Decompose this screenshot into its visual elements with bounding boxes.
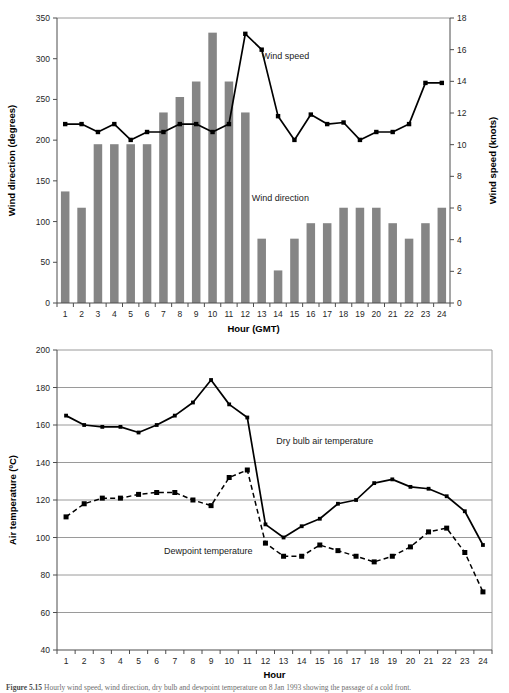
wind-direction-bar — [208, 33, 217, 303]
wind-speed-marker — [210, 130, 214, 134]
wind-direction-bar — [274, 270, 283, 303]
dry-bulb-marker — [209, 378, 213, 382]
wind-speed-marker — [63, 122, 67, 126]
dewpoint-marker — [390, 554, 395, 559]
wind-direction-bar — [388, 223, 397, 303]
figure-caption-label: Figure 5.15 — [6, 683, 42, 692]
x-axis-tick-label: 24 — [437, 309, 447, 319]
left-axis-tick-label: 250 — [36, 94, 50, 104]
right-axis-title: Wind speed (knots) — [487, 117, 498, 205]
wind-speed-marker — [112, 122, 116, 126]
x-axis-tick-label: 9 — [209, 656, 214, 666]
temperature-chart-panel: 406080100120140160180200Air temperature … — [0, 336, 509, 681]
dry-bulb-marker — [64, 414, 68, 418]
wind-speed-marker — [374, 130, 378, 134]
dewpoint-marker — [100, 496, 105, 501]
left-axis-tick-label: 350 — [36, 13, 50, 23]
dry-bulb-marker — [427, 487, 431, 491]
right-axis-tick-label: 8 — [457, 171, 462, 181]
x-axis-tick-label: 3 — [100, 656, 105, 666]
wind-direction-bar — [143, 144, 152, 303]
figure-caption: Figure 5.15 Hourly wind speed, wind dire… — [0, 682, 509, 693]
temperature-x-axis: 123456789101112131415161718192021222324H… — [57, 650, 492, 680]
dewpoint-marker — [227, 475, 232, 480]
dry-bulb-marker — [137, 431, 141, 435]
wind-speed-marker — [128, 138, 132, 142]
dewpoint-marker — [245, 468, 250, 473]
x-axis-tick-label: 7 — [161, 309, 166, 319]
dewpoint-marker — [408, 544, 413, 549]
dewpoint-marker — [281, 554, 286, 559]
wind-direction-bar — [126, 144, 135, 303]
dry-bulb-marker — [191, 401, 195, 405]
wind-direction-bar — [356, 208, 365, 303]
left-axis-tick-label: 0 — [45, 298, 50, 308]
x-axis-tick-label: 23 — [460, 656, 470, 666]
dry-bulb-marker — [155, 423, 159, 427]
x-axis-tick-label: 8 — [191, 656, 196, 666]
wind-left-axis: 050100150200250300350Wind direction (deg… — [6, 13, 57, 308]
x-axis-tick-label: 6 — [154, 656, 159, 666]
right-axis-tick-label: 10 — [457, 140, 467, 150]
dry-bulb-marker — [372, 481, 376, 485]
dry-bulb-marker — [264, 522, 268, 526]
dry-bulb-marker — [282, 536, 286, 540]
dry-bulb-marker — [481, 543, 485, 547]
wind-direction-bar-group — [61, 33, 446, 303]
wind-direction-bar — [159, 112, 168, 303]
x-axis-tick-label: 21 — [388, 309, 398, 319]
wind-right-axis: 024681012141618Wind speed (knots) — [450, 13, 498, 308]
dewpoint-marker — [317, 543, 322, 548]
dry-bulb-marker — [100, 425, 104, 429]
x-axis-tick-label: 18 — [369, 656, 379, 666]
x-axis-tick-label: 16 — [306, 309, 316, 319]
temperature-annotation-group: Dry bulb air temperatureDewpoint tempera… — [164, 436, 373, 557]
x-axis-tick-label: 11 — [225, 309, 234, 319]
wind-x-axis: 123456789101112131415161718192021222324H… — [57, 303, 450, 334]
x-axis-title: Hour (GMT) — [227, 323, 279, 334]
dewpoint-marker — [136, 492, 141, 497]
wind-annotation-group: Wind speedWind direction — [252, 51, 309, 204]
dewpoint-marker — [209, 503, 214, 508]
x-axis-tick-label: 6 — [145, 309, 150, 319]
temperature-chart-svg: 406080100120140160180200Air temperature … — [0, 336, 509, 681]
x-axis-tick-label: 12 — [261, 656, 271, 666]
x-axis-title: Hour — [263, 669, 285, 680]
dry-bulb-marker — [318, 517, 322, 521]
wind-speed-marker — [341, 120, 345, 124]
wind-direction-bar — [94, 144, 103, 303]
dewpoint-marker — [444, 526, 449, 531]
x-axis-tick-label: 1 — [64, 656, 69, 666]
wind-speed-marker — [292, 138, 296, 142]
right-axis-tick-label: 18 — [457, 13, 467, 23]
y-axis-title: Air temperature (ºC) — [7, 455, 18, 545]
left-axis-tick-label: 100 — [36, 217, 50, 227]
y-axis-tick-label: 180 — [36, 383, 50, 393]
left-axis-tick-label: 300 — [36, 54, 50, 64]
right-axis-tick-label: 0 — [457, 298, 462, 308]
x-axis-tick-label: 9 — [194, 309, 199, 319]
dewpoint-marker — [154, 490, 159, 495]
wind-speed-marker — [423, 81, 427, 85]
x-axis-tick-label: 21 — [424, 656, 434, 666]
wind-direction-bar — [257, 239, 266, 303]
dry-bulb-marker — [354, 498, 358, 502]
dry-bulb-marker — [463, 509, 467, 513]
wind-direction-bar — [405, 239, 414, 303]
series-annotation-label: Wind speed — [262, 51, 310, 61]
x-axis-tick-label: 1 — [63, 309, 68, 319]
figure-container: 050100150200250300350Wind direction (deg… — [0, 0, 509, 693]
dry-bulb-marker — [173, 414, 177, 418]
x-axis-tick-label: 15 — [290, 309, 300, 319]
temperature-y-axis: 406080100120140160180200Air temperature … — [7, 345, 57, 655]
right-axis-tick-label: 12 — [457, 108, 467, 118]
x-axis-tick-label: 8 — [177, 309, 182, 319]
dewpoint-marker — [462, 550, 467, 555]
wind-direction-bar — [307, 223, 316, 303]
wind-speed-marker — [79, 122, 83, 126]
dewpoint-marker — [190, 498, 195, 503]
x-axis-tick-label: 14 — [273, 309, 283, 319]
figure-caption-text: Figure 5.15 Hourly wind speed, wind dire… — [0, 682, 509, 693]
wind-speed-marker — [309, 112, 313, 116]
dewpoint-marker — [118, 496, 123, 501]
